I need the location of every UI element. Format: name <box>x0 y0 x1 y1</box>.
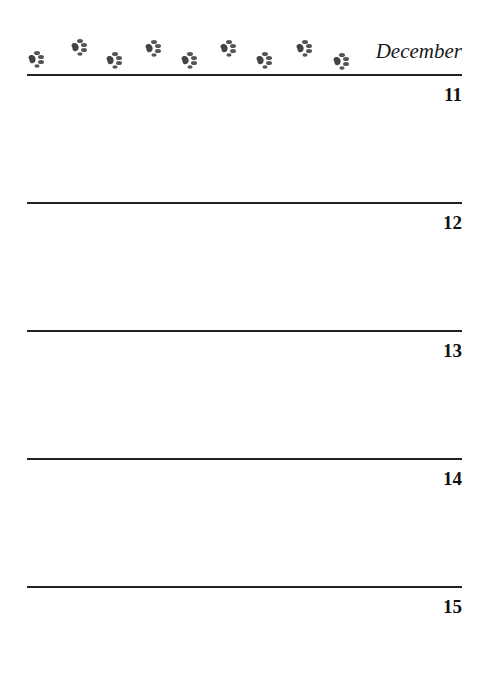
day-number: 14 <box>443 468 462 490</box>
paw-print-icon <box>25 48 45 68</box>
day-divider <box>27 74 462 76</box>
month-title: December <box>376 39 462 64</box>
day-notes-area[interactable] <box>27 238 462 328</box>
day-divider <box>27 586 462 588</box>
day-notes-area[interactable] <box>27 494 462 584</box>
day-divider <box>27 202 462 204</box>
day-notes-area[interactable] <box>27 366 462 456</box>
paw-print-icon <box>253 49 273 69</box>
day-divider <box>27 330 462 332</box>
day-divider <box>27 458 462 460</box>
day-notes-area[interactable] <box>27 622 462 692</box>
paw-print-icon <box>330 50 350 70</box>
day-notes-area[interactable] <box>27 110 462 200</box>
day-number: 11 <box>444 84 462 106</box>
paw-print-icon <box>178 49 198 69</box>
paw-print-icon <box>103 49 123 69</box>
paw-print-icon <box>68 36 88 56</box>
paw-print-icon <box>142 37 162 57</box>
day-number: 13 <box>443 340 462 362</box>
day-number: 15 <box>443 596 462 618</box>
day-number: 12 <box>443 212 462 234</box>
paw-print-icon <box>217 37 237 57</box>
paw-print-icon <box>293 37 313 57</box>
